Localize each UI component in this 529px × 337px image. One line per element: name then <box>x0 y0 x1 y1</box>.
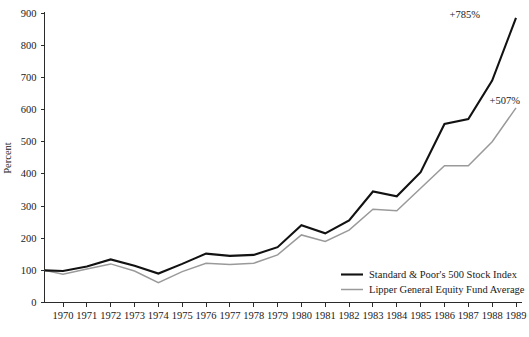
x-tick-label: 1974 <box>148 310 170 321</box>
x-tick-label: 1987 <box>458 310 479 321</box>
y-axis-title: Percent <box>2 142 13 174</box>
x-tick-label: 1980 <box>291 310 312 321</box>
line-chart: 0100200300400500600700800900 19701971197… <box>0 0 529 337</box>
x-tick-label: 1977 <box>219 310 240 321</box>
chart-legend: Standard & Poor's 500 Stock Index Lipper… <box>341 269 525 295</box>
x-tick-label: 1970 <box>53 310 74 321</box>
legend-label-primary: Standard & Poor's 500 Stock Index <box>369 269 518 280</box>
y-tick-label: 300 <box>21 201 37 212</box>
chart-container: 0100200300400500600700800900 19701971197… <box>0 0 529 337</box>
x-tick-label: 1983 <box>362 310 383 321</box>
x-tick-label: 1975 <box>172 310 193 321</box>
y-tick-label: 900 <box>21 8 37 19</box>
y-tick-label: 400 <box>21 168 37 179</box>
x-tick-label: 1985 <box>410 310 431 321</box>
x-tick-label: 1988 <box>482 310 503 321</box>
legend-label-secondary: Lipper General Equity Fund Average <box>369 284 525 295</box>
x-tick-label: 1972 <box>100 310 121 321</box>
series-line-standard-and-poors-500-stock-index <box>45 18 517 274</box>
y-tick-label: 0 <box>31 297 36 308</box>
y-tick-label: 800 <box>21 40 37 51</box>
x-tick-label: 1989 <box>506 310 527 321</box>
x-tick-label: 1979 <box>267 310 288 321</box>
x-tick-label: 1971 <box>76 310 97 321</box>
y-tick-label: 600 <box>21 104 37 115</box>
data-annotation-label: +785% <box>450 9 481 20</box>
y-axis-ticks: 0100200300400500600700800900 <box>21 8 45 309</box>
y-tick-label: 500 <box>21 136 37 147</box>
x-tick-label: 1982 <box>339 310 360 321</box>
y-tick-label: 100 <box>21 265 37 276</box>
x-axis-ticks: 1970197119721973197419751976197719781979… <box>53 303 527 321</box>
x-tick-label: 1973 <box>124 310 145 321</box>
data-annotation-label: +507% <box>490 95 521 106</box>
x-tick-label: 1978 <box>243 310 264 321</box>
x-tick-label: 1986 <box>434 310 455 321</box>
x-tick-label: 1984 <box>386 310 408 321</box>
x-tick-label: 1976 <box>196 310 217 321</box>
y-tick-label: 700 <box>21 72 37 83</box>
series-line-lipper-general-equity-fund-average <box>45 108 517 283</box>
x-tick-label: 1981 <box>315 310 336 321</box>
y-tick-label: 200 <box>21 233 37 244</box>
